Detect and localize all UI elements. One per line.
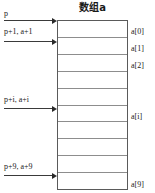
array-cell [58,21,127,38]
pointer-line [4,20,53,21]
pointer-label-p9: p+9, a+9 [4,162,33,171]
array-cell [58,139,127,156]
array-cell [58,156,127,173]
index-label-a0: a[0] [131,27,144,36]
array-cell [58,89,127,106]
index-label-ai: a[i] [131,112,142,121]
array-cell [58,122,127,139]
index-label-a2: a[2] [131,61,144,70]
pointer-label-p: p [4,9,8,18]
arrow-head-icon [52,18,57,24]
pointer-line [4,175,53,176]
pointer-label-p1: p+1, a+1 [4,27,33,36]
array-cell [58,55,127,72]
array-pointer-diagram: 数组a a[0] a[1] a[2] a[i] a[9] p p+1, a+1 … [0,0,155,193]
arrow-head-icon [52,106,57,112]
array-box [57,20,128,190]
index-label-a9: a[9] [131,180,144,189]
arrow-head-icon [52,39,57,45]
array-cell [58,72,127,89]
array-cell [58,173,127,189]
pointer-line [4,41,53,42]
array-cell [58,38,127,55]
array-cell [58,106,127,123]
arrow-head-icon [52,173,57,179]
pointer-line [4,108,53,109]
page-title: 数组a [57,1,128,14]
pointer-label-pi: p+i, a+i [4,95,29,104]
index-label-a1: a[1] [131,44,144,53]
